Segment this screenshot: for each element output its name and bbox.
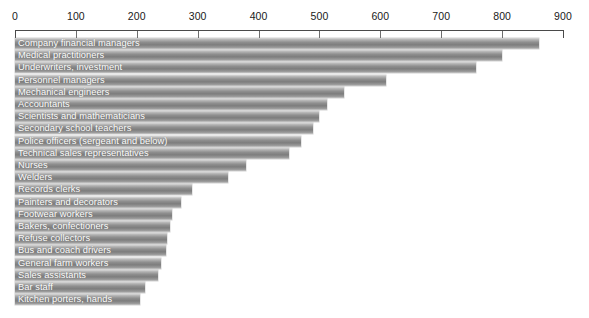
- bar-row[interactable]: Scientists and mathematicians: [15, 111, 563, 122]
- x-axis-tick-label: 700: [432, 10, 450, 22]
- bar[interactable]: [15, 50, 502, 61]
- x-axis-tick-label: 300: [189, 10, 207, 22]
- bar-row[interactable]: Bakers, confectioners: [15, 221, 563, 232]
- x-axis-tick: [380, 31, 381, 38]
- bar-row[interactable]: Bar staff: [15, 282, 563, 293]
- x-axis-tick-label: 200: [128, 10, 146, 22]
- bar[interactable]: [15, 87, 344, 98]
- bar-row[interactable]: Accountants: [15, 99, 563, 110]
- x-axis-tick-label: 0: [12, 10, 18, 22]
- x-axis-tick-label: 100: [67, 10, 85, 22]
- bar[interactable]: [15, 111, 319, 122]
- bar-row[interactable]: Technical sales representatives: [15, 148, 563, 159]
- x-axis-tick: [441, 31, 442, 38]
- bar-row[interactable]: Personnel managers: [15, 75, 563, 86]
- bar[interactable]: [15, 184, 192, 195]
- bar-row[interactable]: Medical practitioners: [15, 50, 563, 61]
- x-axis-tick-label: 500: [311, 10, 329, 22]
- bar-row[interactable]: Underwriters, investment: [15, 62, 563, 73]
- x-axis-right-cap: [563, 30, 564, 38]
- bar-row[interactable]: Secondary school teachers: [15, 123, 563, 134]
- bar-row[interactable]: Bus and coach drivers: [15, 245, 563, 256]
- x-axis-tick-label: 900: [554, 10, 572, 22]
- bar-row[interactable]: Nurses: [15, 160, 563, 171]
- x-axis-tick: [76, 31, 77, 38]
- bar[interactable]: [15, 221, 170, 232]
- bar-row[interactable]: Painters and decorators: [15, 197, 563, 208]
- bar[interactable]: [15, 245, 166, 256]
- bar[interactable]: [15, 172, 228, 183]
- bar-row[interactable]: Kitchen porters, hands: [15, 294, 563, 305]
- bar-row[interactable]: Mechanical engineers: [15, 87, 563, 98]
- bar[interactable]: [15, 148, 289, 159]
- bar[interactable]: [15, 258, 161, 269]
- bar[interactable]: [15, 75, 386, 86]
- x-axis-tick-label: 400: [250, 10, 268, 22]
- bar[interactable]: [15, 123, 313, 134]
- bar-row[interactable]: Welders: [15, 172, 563, 183]
- bar[interactable]: [15, 197, 181, 208]
- x-axis-tick: [319, 31, 320, 38]
- bar-row[interactable]: Sales assistants: [15, 270, 563, 281]
- bar-row[interactable]: Company financial managers: [15, 38, 563, 49]
- bar[interactable]: [15, 38, 539, 49]
- bar[interactable]: [15, 136, 301, 147]
- bar[interactable]: [15, 294, 140, 305]
- x-axis-tick: [198, 31, 199, 38]
- bar-row[interactable]: Police officers (sergeant and below): [15, 136, 563, 147]
- bars-container: Company financial managersMedical practi…: [0, 38, 589, 318]
- x-axis-line: [15, 30, 563, 31]
- x-axis-tick-label: 800: [493, 10, 511, 22]
- bar-row[interactable]: General farm workers: [15, 258, 563, 269]
- bar[interactable]: [15, 62, 476, 73]
- bar-row[interactable]: Refuse collectors: [15, 233, 563, 244]
- bar[interactable]: [15, 270, 158, 281]
- bar[interactable]: [15, 233, 167, 244]
- horizontal-bar-chart: 0100200300400500600700800900 Company fin…: [0, 0, 589, 318]
- bar[interactable]: [15, 99, 327, 110]
- bar-row[interactable]: Footwear workers: [15, 209, 563, 220]
- x-axis-tick: [502, 31, 503, 38]
- x-axis-tick: [137, 31, 138, 38]
- bar[interactable]: [15, 160, 246, 171]
- x-axis-tick: [259, 31, 260, 38]
- x-axis-tick-label: 600: [371, 10, 389, 22]
- x-axis-tick-labels: 0100200300400500600700800900: [0, 10, 589, 26]
- bar[interactable]: [15, 282, 145, 293]
- x-axis-left-cap: [15, 30, 16, 38]
- bar-row[interactable]: Records clerks: [15, 184, 563, 195]
- bar[interactable]: [15, 209, 172, 220]
